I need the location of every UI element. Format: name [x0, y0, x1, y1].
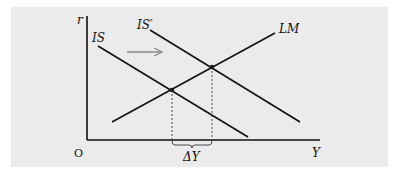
delta-brace: [172, 141, 212, 148]
is-label: IS: [91, 31, 105, 45]
is-prime-curve: [150, 30, 300, 122]
lm-label: LM: [278, 22, 300, 36]
is-prime-label: IS′: [136, 18, 153, 32]
delta-y-label: ΔY: [182, 150, 201, 164]
origin-label: O: [74, 147, 83, 160]
x-axis-label: Y: [312, 146, 321, 160]
y-axis-label: r: [77, 13, 84, 27]
is-lm-diagram: r Y O IS IS′ LM ΔY: [0, 0, 393, 173]
lm-curve: [112, 33, 275, 122]
